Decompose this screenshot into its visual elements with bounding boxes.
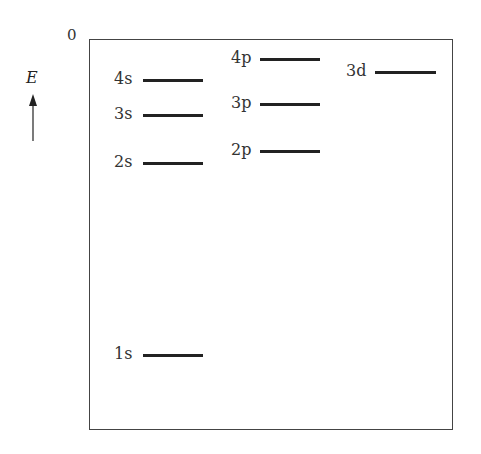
energy-level-4p [260,58,320,61]
energy-level-label: 4s [114,71,132,87]
energy-level-2p [260,150,320,153]
energy-level-label: 2s [114,154,132,170]
energy-level-label: 3p [231,95,251,111]
energy-level-label: 1s [114,346,132,362]
energy-axis-label: E [26,68,38,87]
energy-level-4s [143,79,203,82]
diagram-frame [89,39,453,430]
energy-level-2s [143,162,203,165]
energy-level-1s [143,354,203,357]
energy-level-3p [260,103,320,106]
energy-level-label: 2p [231,142,251,158]
energy-level-label: 3d [346,63,366,79]
zero-energy-label: 0 [67,26,77,44]
up-arrow-icon [28,94,38,142]
energy-level-label: 3s [114,106,132,122]
energy-level-3s [143,114,203,117]
energy-level-label: 4p [231,50,251,66]
energy-level-3d [375,71,436,74]
